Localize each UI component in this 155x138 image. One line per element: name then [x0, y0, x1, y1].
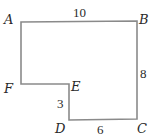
vertex-label-e: E — [70, 79, 81, 94]
vertex-label-f: F — [3, 81, 14, 96]
vertex-label-b: B — [138, 12, 149, 27]
l-shape-diagram: A B C D E F 10 8 3 6 — [0, 0, 155, 138]
edge-length-de: 3 — [57, 96, 64, 111]
edge-length-ab: 10 — [73, 5, 86, 20]
vertex-label-c: C — [137, 121, 147, 136]
polygon-abcdef — [21, 21, 137, 120]
vertex-label-d: D — [54, 121, 66, 136]
diagram-canvas: A B C D E F 10 8 3 6 — [0, 0, 155, 138]
vertex-label-a: A — [3, 12, 13, 27]
edge-length-dc: 6 — [97, 122, 104, 137]
edge-length-bc: 8 — [140, 66, 147, 81]
